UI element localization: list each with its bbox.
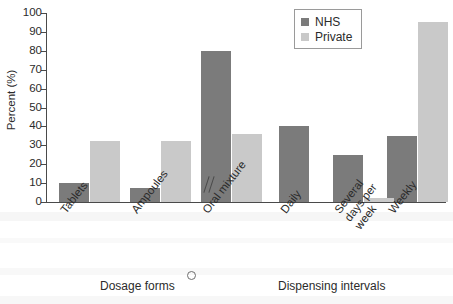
y-tick-label: 80	[29, 45, 42, 57]
group-title-dispensing-intervals: Dispensing intervals	[278, 279, 385, 293]
legend-item-nhs: NHS	[301, 14, 352, 29]
y-tick-label: 70	[29, 64, 42, 76]
y-axis-title: Percent (%)	[4, 55, 18, 145]
legend-label-private: Private	[315, 31, 352, 43]
y-axis-title-text: Percent (%)	[5, 70, 17, 131]
y-tick-label: 50	[29, 102, 42, 114]
y-axis-line	[46, 13, 47, 203]
y-tick-label: 30	[29, 140, 42, 152]
y-tick-label: 90	[29, 26, 42, 38]
bar	[90, 141, 120, 202]
y-tick-label: 40	[29, 121, 42, 133]
group-title-dosage-forms: Dosage forms	[100, 279, 175, 293]
scan-artifact-band	[0, 268, 453, 275]
legend-swatch-nhs	[301, 18, 309, 26]
y-tick-label: 10	[29, 177, 42, 189]
y-tick-label: 20	[29, 158, 42, 170]
legend-item-private: Private	[301, 29, 352, 44]
scan-artifact-band	[0, 296, 453, 304]
scan-artifact-band	[0, 238, 453, 243]
legend: NHS Private	[294, 9, 362, 49]
legend-label-nhs: NHS	[315, 16, 340, 28]
y-tick-label: 60	[29, 83, 42, 95]
legend-swatch-private	[301, 33, 309, 41]
plot-area: 0102030405060708090100	[46, 13, 446, 203]
y-tick-label: 0	[36, 196, 42, 208]
scan-artifact-circle	[187, 271, 196, 280]
y-tick-label: 100	[23, 7, 42, 19]
bar	[418, 22, 448, 202]
